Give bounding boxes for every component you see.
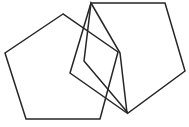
- polygon-figure-canvas: [0, 0, 189, 127]
- canvas-background: [0, 0, 189, 127]
